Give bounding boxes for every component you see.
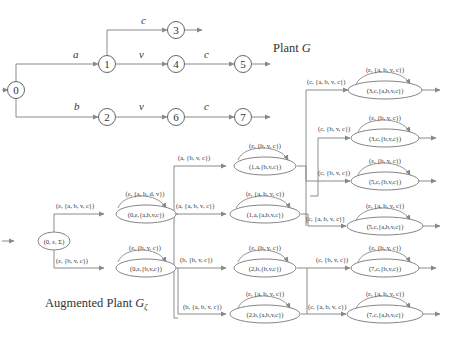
aug-state-label: (5,c,{b,v,c}) xyxy=(369,178,401,186)
plant-node-3: 3 xyxy=(168,22,185,39)
aug-trunk-b xyxy=(174,268,178,318)
aug-self-loop-label: (ε, {a, b, v, c}) xyxy=(366,202,404,210)
aug-edge-label: (a, {b, v, c}) xyxy=(178,154,210,162)
aug-state-0e-abvc: (ε, {a, b, d, v}) (0,ε,{a,b,v,c}) xyxy=(116,190,178,223)
aug-state-label: (0,ε,{a,b,v,c}) xyxy=(128,211,165,219)
aug-edge-label: (c, {a, b, v, c}) xyxy=(307,78,345,86)
aug-state-5c-abvc: (ε, {a, b, v, c}) (5,c,{a,b,v,c}) xyxy=(347,202,440,235)
aug-state-1a-abvc: (ε, {a, b, v, c}) (1,a,{a,b,v,c}) xyxy=(230,190,300,223)
aug-state-3c-bvc: (ε, {b, v, c}) (3,c,{b,v,c}) xyxy=(351,114,436,147)
plant-edge-1-3 xyxy=(107,30,167,56)
plant-edge-label-v-26: v xyxy=(139,100,144,112)
plant-edge-label-a: a xyxy=(73,48,79,60)
aug-self-loop-label: (ε, {a, b, v, c}) xyxy=(246,290,284,298)
plant-node-label: 1 xyxy=(104,58,110,70)
aug-state-7c-abvc: (ε, {a, b, v, c}) (7,c,{a,b,v,c}) xyxy=(347,290,440,323)
aug-state-1a-bvc: (ε, {b, v, c}) (1,a,{b,v,c}) xyxy=(234,142,296,175)
plant-node-label: 2 xyxy=(104,111,110,123)
aug-edge-label: (ε, {b, v, c}) xyxy=(56,257,88,265)
aug-edge-init-0e-abvc xyxy=(54,214,104,232)
plant-graph: a b c v c v c 0 1 2 3 4 5 6 7 Plant G xyxy=(2,14,311,126)
plant-node-7: 7 xyxy=(235,109,252,126)
plant-node-5: 5 xyxy=(235,56,252,73)
plant-edge-0-1 xyxy=(16,64,98,82)
aug-trunk-3c xyxy=(310,138,318,196)
aug-state-label: (7,c,{a,b,v,c}) xyxy=(367,311,404,319)
aug-initial-node: (0, ε, Σ) xyxy=(38,232,70,250)
augmented-graph: (0, ε, Σ) (ε, {a, b, v, c}) (ε, {b, v, c… xyxy=(2,66,440,323)
plant-node-2: 2 xyxy=(99,109,116,126)
aug-self-loop-label: (ε, {b, v, c}) xyxy=(249,142,281,150)
aug-state-label: (7,c,{b,v,c}) xyxy=(369,265,401,273)
plant-edge-label-b: b xyxy=(74,100,80,112)
plant-node-label: 4 xyxy=(173,58,179,70)
aug-edge-label: (ε, {a, b, v, c}) xyxy=(56,202,94,210)
aug-self-loop-label: (ε, {a, b, v, c}) xyxy=(366,290,404,298)
aug-state-label: (2,b,{a,b,v,c}) xyxy=(246,311,283,319)
aug-state-7c-bvc: (ε, {b, v, c}) (7,c,{b,v,c}) xyxy=(351,244,436,277)
aug-edge-label: (c, {a, b, v, c}) xyxy=(308,303,346,311)
plant-node-4: 4 xyxy=(168,56,185,73)
plant-node-0: 0 xyxy=(8,82,25,99)
plant-node-label: 6 xyxy=(173,111,179,123)
aug-state-label: (0,ε,{b,v,c}) xyxy=(130,265,162,273)
aug-initial-label: (0, ε, Σ) xyxy=(44,238,65,246)
aug-state-2b-bvc: (ε, {b, v, c}) (2,b,{b,v,c}) xyxy=(234,244,296,277)
augmented-title: Augmented Plant Gζ xyxy=(45,296,148,312)
aug-state-label: (3,c,{a,b,v,c}) xyxy=(367,87,404,95)
plant-node-label: 5 xyxy=(240,58,246,70)
plant-edge-label-v-14: v xyxy=(139,48,144,60)
aug-edge-label: (c, {b, v, c}) xyxy=(316,256,348,264)
aug-self-loop-label: (ε, {b, v, c}) xyxy=(129,244,161,252)
plant-title: Plant G xyxy=(273,41,311,55)
plant-edge-label-c-67: c xyxy=(204,100,209,112)
plant-edge-label-c-45: c xyxy=(204,48,209,60)
aug-self-loop-label: (ε, {b, v, c}) xyxy=(369,157,401,165)
aug-edge-label: (b, {b, v, c}) xyxy=(180,256,213,264)
plant-node-label: 3 xyxy=(173,24,179,36)
aug-self-loop-label: (ε, {a, b, d, v}) xyxy=(126,190,165,198)
plant-node-label: 0 xyxy=(13,84,19,96)
diagram-canvas: a b c v c v c 0 1 2 3 4 5 6 7 Plant G xyxy=(0,0,451,340)
aug-edge-label: (c, {b, v, c}) xyxy=(318,169,350,177)
aug-self-loop-label: (ε, {b, v, c}) xyxy=(369,114,401,122)
aug-edge-label: (b, {a, b, v, c}) xyxy=(183,303,222,311)
aug-state-3c-abvc: (ε, {a, b, v, c}) (3,c,{a,b,v,c}) xyxy=(348,66,440,99)
plant-edge-0-2 xyxy=(16,98,98,117)
aug-self-loop-label: (ε, {a, b, v, c}) xyxy=(366,66,404,74)
aug-self-loop-label: (ε, {a, b, v, c}) xyxy=(246,190,284,198)
aug-state-2b-abvc: (ε, {a, b, v, c}) (2,b,{a,b,v,c}) xyxy=(230,290,300,323)
aug-edge-label: (a, {a, b, v, c}) xyxy=(176,202,214,210)
aug-state-label: (2,b,{b,v,c}) xyxy=(249,265,282,273)
aug-self-loop-label: (ε, {b, v, c}) xyxy=(249,244,281,252)
plant-node-1: 1 xyxy=(99,56,116,73)
plant-edge-label-c-13: c xyxy=(141,14,146,26)
plant-node-label: 7 xyxy=(240,111,246,123)
aug-state-label: (3,c,{b,v,c}) xyxy=(369,135,401,143)
plant-node-6: 6 xyxy=(168,109,185,126)
aug-edge-label: [c, {a, b, v, c}] xyxy=(306,215,344,223)
aug-state-5c-bvc: (ε, {b, v, c}) (5,c,{b,v,c}) xyxy=(351,157,436,190)
aug-state-0e-bvc: (ε, {b, v, c}) (0,ε,{b,v,c}) xyxy=(116,244,176,277)
aug-state-label: (1,a,{a,b,v,c}) xyxy=(247,211,284,219)
aug-state-label: (5,c,{a,b,v,c}) xyxy=(367,223,404,231)
aug-edge-label: (c, {b, v, c}) xyxy=(318,125,350,133)
aug-self-loop-label: (ε, {b, v, c}) xyxy=(369,244,401,252)
aug-state-label: (1,a,{b,v,c}) xyxy=(249,163,281,171)
